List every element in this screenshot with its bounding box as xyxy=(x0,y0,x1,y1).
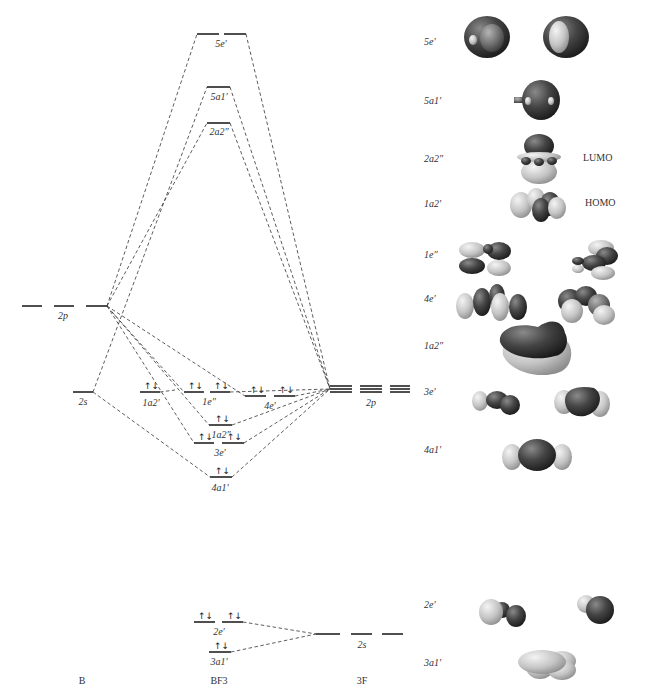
lumo-tag: LUMO xyxy=(583,152,612,163)
orbital-3e-a xyxy=(472,391,520,415)
orbital-5e-a xyxy=(464,16,510,58)
orbital-label-1a2pp: 1a2″ xyxy=(424,340,443,351)
orbital-5a1 xyxy=(514,80,560,120)
spin-pair-2e-b: ↑↓ xyxy=(227,611,242,621)
column-label-b: B xyxy=(79,675,86,686)
label-2a2: 2a2″ xyxy=(209,126,229,137)
orbital-label-5a1: 5a1′ xyxy=(424,95,441,106)
electron-pairs: ↑↓ ↑↓ ↑↓ ↑↓ ↑↓ ↑↓ ↑↓ ↑↓ ↑↓ ↑↓ ↑↓ ↑↓ xyxy=(144,381,294,651)
orbital-5e-b xyxy=(543,16,589,58)
orbital-pictures xyxy=(456,16,618,680)
label-3e: 3e′ xyxy=(213,447,226,458)
spin-pair-3a1: ↑↓ xyxy=(214,641,229,651)
orbital-2e-a xyxy=(479,599,526,627)
column-labels: B BF3 3F xyxy=(79,675,368,686)
label-1a2p: 1a2′ xyxy=(142,397,160,408)
orbital-1e-a xyxy=(459,242,511,276)
column-label-bf3: BF3 xyxy=(210,675,227,686)
label-1a2pp: 1a2″ xyxy=(211,429,231,440)
orbital-3e-b xyxy=(554,387,610,417)
level-labels: 2p 2s 5e′ 5a1′ 2a2″ 1a2′ 1e″ 4e′ 1a2″ 3e… xyxy=(58,38,376,667)
orbital-label-2e: 2e′ xyxy=(424,599,436,610)
column-label-3f: 3F xyxy=(357,675,368,686)
orbital-label-3a1: 3a1′ xyxy=(424,657,441,668)
homo-tag: HOMO xyxy=(585,197,616,208)
label-4e: 4e′ xyxy=(264,400,276,411)
orbital-1e-b xyxy=(572,240,618,280)
label-3a1: 3a1′ xyxy=(209,656,228,667)
spin-pair-2e-a: ↑↓ xyxy=(198,611,213,621)
label-4a1: 4a1′ xyxy=(211,482,229,493)
orbital-label-4a1: 4a1′ xyxy=(424,444,441,455)
orbital-2e-b xyxy=(577,595,614,624)
orbital-label-1a2p: 1a2′ xyxy=(424,198,441,209)
spin-pair-1e-b: ↑↓ xyxy=(214,381,229,391)
orbital-4e-a xyxy=(456,284,527,321)
orbital-label-4e: 4e′ xyxy=(424,293,436,304)
spin-pair-4e-b: ↑↓ xyxy=(279,385,294,395)
mo-diagram: ↑↓ ↑↓ ↑↓ ↑↓ ↑↓ ↑↓ ↑↓ ↑↓ ↑↓ ↑↓ ↑↓ ↑↓ 2p 2… xyxy=(0,0,647,698)
spin-pair-1e-a: ↑↓ xyxy=(188,381,203,391)
spin-pair-4e-a: ↑↓ xyxy=(250,385,265,395)
orbital-2a2-lumo xyxy=(517,134,561,184)
label-5e: 5e′ xyxy=(215,38,227,49)
spin-pair-1a2p: ↑↓ xyxy=(144,381,159,391)
spin-pair-1a2pp: ↑↓ xyxy=(215,414,230,424)
label-2e: 2e′ xyxy=(213,626,225,637)
orbital-label-3e: 3e′ xyxy=(424,386,436,397)
spin-pair-4a1: ↑↓ xyxy=(215,466,230,476)
label-5a1: 5a1′ xyxy=(210,91,228,102)
b-2s-label: 2s xyxy=(79,396,88,407)
orbital-3a1 xyxy=(518,650,576,680)
orbital-label-2a2: 2a2″ xyxy=(424,153,443,164)
b-2p-label: 2p xyxy=(58,310,68,321)
orbital-1a2pp xyxy=(500,321,571,375)
orbital-label-5e: 5e′ xyxy=(424,36,436,47)
orbital-label-1e: 1e″ xyxy=(424,249,438,260)
orbital-4e-b xyxy=(558,286,615,325)
f-2p-label: 2p xyxy=(366,397,376,408)
orbital-1a2p-homo xyxy=(510,188,566,222)
label-1e: 1e″ xyxy=(202,396,216,407)
orbital-4a1 xyxy=(502,439,572,471)
f-2s-label: 2s xyxy=(358,639,367,650)
